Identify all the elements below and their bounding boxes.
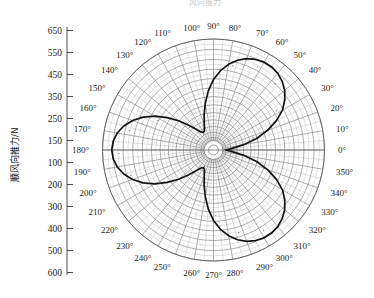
y-axis-tick-label: 300 [48,202,63,212]
polar-angle-label: 130° [116,50,134,60]
polar-angle-label: 220° [101,225,119,235]
polar-angle-label: 160° [79,103,97,113]
polar-angle-label: 30° [321,83,334,93]
data-point-dot [204,166,205,167]
y-axis-tick-label: 150 [48,136,63,146]
polar-angle-label: 150° [89,83,107,93]
polar-angle-label: 90° [207,21,220,31]
data-point-dot [275,83,276,84]
data-point-dot [253,159,254,160]
data-point-dot [279,211,280,212]
data-point-dot [157,120,158,121]
polar-angle-label: 20° [330,103,343,113]
polar-angle-label: 50° [294,50,307,60]
polar-angle-label: 230° [116,241,134,251]
y-axis-title: 顺风向推力/N [9,127,20,182]
data-point-dot [232,65,233,66]
polar-angle-label: 190° [74,167,92,177]
data-point-dot [205,182,206,183]
cut-off-title-text: 风向推力 [189,0,221,7]
data-point-dot [203,117,204,118]
y-axis-tick-label: 450 [48,70,63,80]
polar-angle-label: 340° [330,188,348,198]
data-point-dot [263,229,264,230]
polar-angle-label: 300° [276,253,294,263]
data-point-dot [160,183,161,184]
data-point-dot [203,134,204,135]
y-axis-tick-label: 100 [48,158,63,168]
polar-angle-label: 210° [89,207,107,217]
data-point-dot [211,84,212,85]
y-axis-title-text: 顺风向推力/N [9,127,20,182]
y-axis-tick-label: 400 [48,224,63,234]
data-point-dot [118,153,119,154]
y-axis-tick-label: 600 [48,268,63,278]
data-point-dot [278,184,279,185]
data-point-dot [224,149,225,150]
polar-angle-label: 290° [256,262,274,272]
polar-angle-label: 240° [134,253,152,263]
polar-angle-label: 120° [134,37,152,47]
polar-angle-label: 70° [256,28,269,38]
polar-angle-label: 250° [154,262,172,272]
y-axis-tick-label: 250 [48,114,63,124]
polar-angle-label: 10° [336,124,349,134]
polar-angle-label: 80° [229,23,242,33]
y-axis-tick-label: 650 [48,26,63,36]
polar-angle-label: 60° [276,37,289,47]
polar-angle-label: 100° [183,23,201,33]
data-point-dot [253,137,254,138]
y-axis-tick-label: 350 [48,92,63,102]
y-axis-tick-label: 550 [48,48,63,58]
data-point-dot [215,215,216,216]
polar-angle-label: 180° [72,145,90,155]
cut-off-title: 风向推力 [189,0,221,7]
polar-angle-label: 310° [294,241,312,251]
polar-angle-label: 140° [101,65,119,75]
polar-angle-label: 350° [336,167,354,177]
polar-angle-label: 200° [79,188,97,198]
polar-angle-label: 40° [309,65,322,75]
polar-angle-label: 320° [309,225,327,235]
polar-angle-label: 330° [321,207,339,217]
data-point-dot [130,175,131,176]
polar-angle-label: 260° [183,268,201,278]
polar-chart-canvas: 风向推力 65055045035025015010020030040050060… [0,0,374,298]
polar-chart-figure: 风向推力 65055045035025015010020030040050060… [0,0,374,298]
polar-angle-label: 170° [74,124,92,134]
y-axis-tick-label: 200 [48,180,63,190]
polar-angle-label: 270° [205,270,223,280]
y-axis-tick-label: 500 [48,246,63,256]
data-point-dot [257,66,258,67]
data-point-dot [129,130,130,131]
data-point-dot [189,127,190,128]
data-point-dot [191,173,192,174]
polar-angle-label: 110° [154,28,171,38]
data-point-dot [276,110,277,111]
data-point-dot [238,232,239,233]
polar-angle-label: 0° [338,145,347,155]
polar-angle-label: 280° [227,268,245,278]
